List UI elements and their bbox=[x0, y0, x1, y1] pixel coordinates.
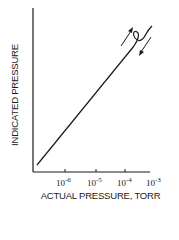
x-tick-label-1e-6: 10-6 bbox=[56, 176, 71, 188]
y-axis-label: INDICATED PRESSURE bbox=[9, 44, 20, 146]
tick-base: 10 bbox=[87, 178, 96, 188]
tick-base: 10 bbox=[117, 178, 126, 188]
x-axis-label: ACTUAL PRESSURE, TORR bbox=[0, 190, 179, 201]
up-arrow-line bbox=[121, 31, 131, 46]
tick-base: 10 bbox=[146, 178, 155, 188]
down-arrow-icon bbox=[139, 50, 144, 56]
tick-exp: -4 bbox=[126, 176, 132, 184]
x-tick-label-1e-5: 10-5 bbox=[87, 176, 102, 188]
hysteresis-curve bbox=[134, 26, 152, 46]
tick-exp: -3 bbox=[155, 176, 161, 184]
tick-base: 10 bbox=[56, 178, 65, 188]
x-tick-label-1e-4: 10-4 bbox=[117, 176, 132, 188]
up-arrow-icon bbox=[128, 27, 133, 33]
data-line bbox=[37, 46, 134, 165]
tick-exp: -5 bbox=[96, 176, 102, 184]
x-tick-label-1e-3: 10-3 bbox=[146, 176, 161, 188]
tick-exp: -6 bbox=[65, 176, 71, 184]
